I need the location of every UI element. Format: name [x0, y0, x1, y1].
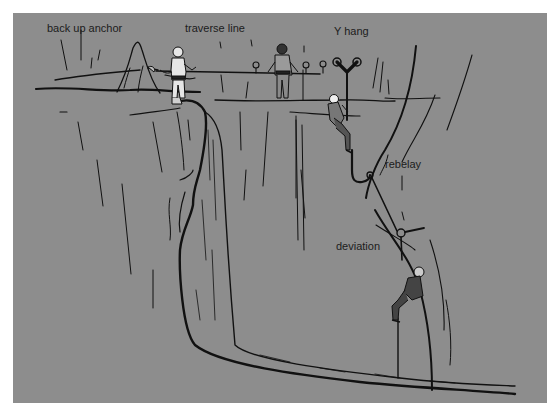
cave-illustration: [13, 13, 547, 403]
climber-traverse: [268, 44, 298, 98]
climber-deviation: [392, 267, 424, 322]
climber-y-hang: [328, 95, 352, 154]
label-traverse-line: traverse line: [185, 23, 245, 34]
label-y-hang: Y hang: [334, 26, 369, 37]
label-deviation: deviation: [336, 241, 380, 252]
label-back-up-anchor: back up anchor: [47, 23, 122, 34]
cave-rigging-diagram: back up anchor traverse line Y hang rebe…: [13, 13, 547, 403]
label-rebelay: rebelay: [385, 159, 421, 170]
